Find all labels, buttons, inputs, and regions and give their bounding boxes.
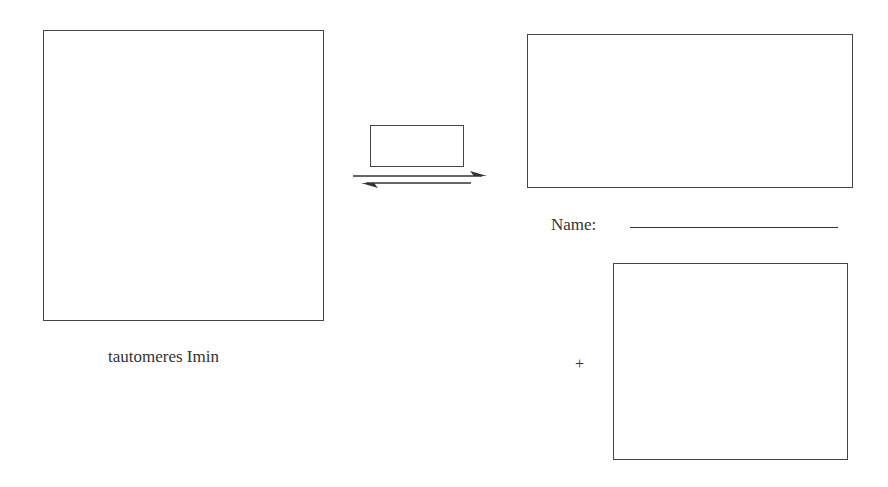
name-label: Name: <box>551 215 596 235</box>
product-bottom-structure-box[interactable] <box>613 263 848 460</box>
plus-sign: + <box>575 355 584 373</box>
product-top-structure-box[interactable] <box>527 34 853 188</box>
name-answer-line[interactable] <box>630 227 838 228</box>
